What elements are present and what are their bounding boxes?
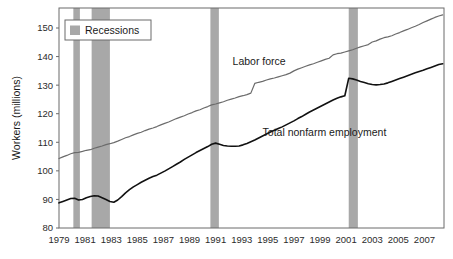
series-annotation: Labor force [233,55,286,67]
x-tick-label: 1995 [257,234,278,245]
x-tick-label: 1993 [231,234,252,245]
x-tick-label: 1983 [101,234,122,245]
legend-swatch-recessions [70,26,80,36]
x-tick-label: 1991 [205,234,226,245]
y-tick-label: 150 [37,22,53,33]
x-tick-label: 2003 [362,234,383,245]
y-axis-title: Workers (millions) [10,76,22,160]
y-tick-label: 80 [42,222,53,233]
x-tick-label: 1985 [127,234,148,245]
y-axis-title-layer: Workers (millions) [10,76,22,160]
recession-band [349,8,358,228]
x-tick-label: 2007 [414,234,435,245]
y-tick-label: 140 [37,51,53,62]
legend-label-recessions: Recessions [85,24,139,36]
x-tick-label: 1979 [48,234,69,245]
y-tick-label: 130 [37,80,53,91]
x-tick-label: 1987 [153,234,174,245]
x-tick-label: 1989 [179,234,200,245]
x-tick-label: 2005 [388,234,409,245]
chart-container: 8090100110120130140150 19791981198319851… [0,0,453,259]
series-annotation: Total nonfarm employment [263,126,387,138]
workers-line-chart: 8090100110120130140150 19791981198319851… [0,0,453,259]
chart-legend: Recessions [65,20,151,40]
x-tick-label: 1981 [75,234,96,245]
x-axis-ticks: 1979198119831985198719891991199319951997… [48,234,435,245]
y-tick-label: 100 [37,165,53,176]
x-tick-label: 1999 [309,234,330,245]
x-tick-label: 1997 [283,234,304,245]
x-tick-label: 2001 [336,234,357,245]
y-tick-label: 90 [42,194,53,205]
y-tick-label: 120 [37,108,53,119]
recession-band [210,8,218,228]
y-tick-label: 110 [38,137,53,148]
recession-band [73,8,80,228]
